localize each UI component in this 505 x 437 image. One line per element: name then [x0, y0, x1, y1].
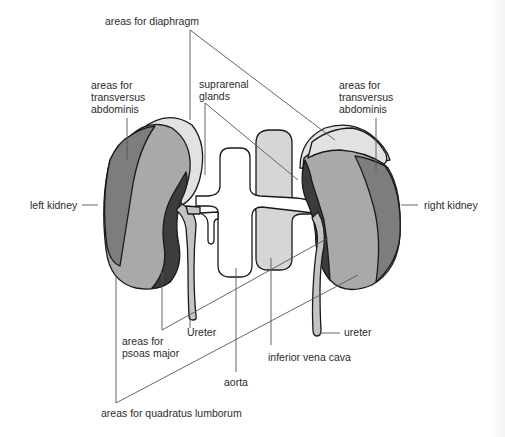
label-right-transversus-line3: abdominis	[339, 103, 387, 115]
left-renal-vein	[186, 206, 200, 214]
label-aorta: aorta	[224, 376, 248, 388]
right-ureter	[312, 212, 324, 336]
label-right-kidney: right kidney	[424, 199, 478, 211]
left-renal-artery	[200, 212, 218, 244]
label-ureter-left: Ureter	[187, 326, 217, 338]
label-left-transversus-line3: abdominis	[91, 103, 139, 115]
label-right-transversus-line2: transversus	[339, 91, 393, 103]
kidney-relations-diagram: areas for diaphragm suprarenal glands ar…	[0, 0, 505, 437]
label-suprarenal-line1: suprarenal	[199, 78, 249, 90]
label-diaphragm: areas for diaphragm	[105, 15, 199, 27]
labels: areas for diaphragm suprarenal glands ar…	[30, 15, 478, 419]
label-suprarenal-line2: glands	[199, 90, 230, 102]
left-kidney	[104, 118, 203, 320]
label-left-transversus-line2: transversus	[91, 91, 145, 103]
label-psoas-line2: psoas major	[122, 347, 180, 359]
label-psoas-line1: areas for	[122, 335, 164, 347]
label-ureter-right: ureter	[344, 326, 372, 338]
label-ivc: inferior vena cava	[268, 351, 351, 363]
label-right-transversus-line1: areas for	[339, 79, 381, 91]
right-kidney	[300, 125, 400, 336]
label-left-transversus-line1: areas for	[91, 79, 133, 91]
label-quadratus: areas for quadratus lumborum	[101, 407, 242, 419]
label-left-kidney: left kidney	[30, 199, 78, 211]
